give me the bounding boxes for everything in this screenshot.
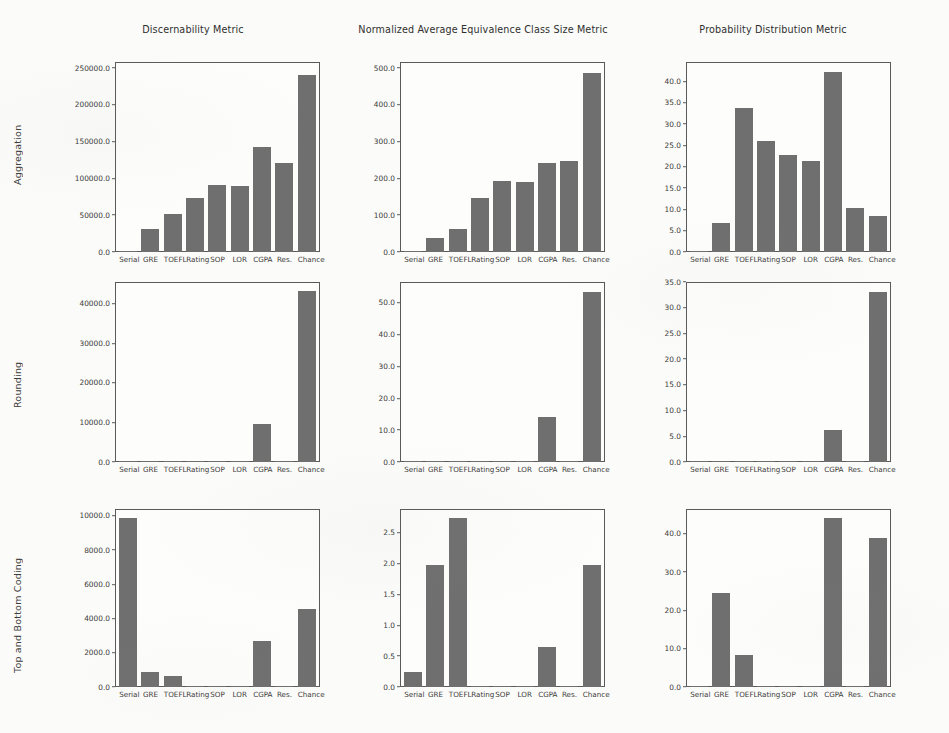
y-tick-label: 100.0 [374, 211, 400, 218]
bar-lor [231, 461, 249, 462]
bar-serial [690, 461, 708, 462]
bar-res [560, 161, 578, 252]
bar-toefl [449, 518, 467, 687]
bar-toefl [164, 214, 182, 252]
y-tick-label: 35.0 [665, 278, 686, 285]
bars-container [400, 282, 605, 462]
chart-cell-2: Probability Distribution Metric 0.05.010… [628, 24, 918, 274]
bars-container [686, 62, 891, 252]
x-tick-label: TOEFL [449, 255, 467, 264]
bar-gre [712, 593, 730, 687]
bar-gre [141, 672, 159, 687]
row-label-rounding: Rounding [12, 345, 36, 425]
bar-lor [516, 461, 534, 462]
bar-serial [690, 686, 708, 687]
y-tick-label: 0.0 [669, 458, 686, 465]
y-tick-label: 0.5 [383, 652, 400, 659]
bar-rating [186, 686, 204, 687]
bar-rating [471, 461, 489, 462]
x-axis-labels: SerialGRETOEFLRatingSOPLORCGPARes.Chance [686, 465, 891, 474]
bar-sop [779, 155, 797, 252]
x-tick-label: SOP [493, 255, 511, 264]
y-tick-label: 10.0 [379, 426, 400, 433]
chart-cell-6: 0.02000.04000.06000.08000.010000.0 Seria… [48, 495, 338, 710]
bar-toefl [735, 461, 753, 462]
y-tick-label: 10000.0 [79, 419, 115, 426]
bar-toefl [735, 655, 753, 687]
bars-container [400, 509, 605, 687]
bar-gre [426, 238, 444, 252]
y-tick-label: 40.0 [379, 331, 400, 338]
x-tick-label: Rating [186, 255, 204, 264]
x-tick-label: LOR [802, 465, 820, 474]
x-axis-labels: SerialGRETOEFLRatingSOPLORCGPARes.Chance [115, 255, 320, 264]
y-tick-label: 35.0 [665, 99, 686, 106]
bar-chance [583, 73, 601, 252]
y-tick-label: 0.0 [383, 683, 400, 690]
x-tick-label: TOEFL [735, 465, 753, 474]
y-tick-label: 0.0 [669, 683, 686, 690]
bar-serial [119, 251, 137, 252]
y-tick-label: 10.0 [665, 645, 686, 652]
x-tick-label: Serial [690, 465, 708, 474]
bar-serial [404, 461, 422, 462]
plot-area: 0.010.020.030.040.050.0 SerialGRETOEFLRa… [400, 282, 605, 462]
bar-cgpa [538, 163, 556, 252]
x-axis-labels: SerialGRETOEFLRatingSOPLORCGPARes.Chance [400, 255, 605, 264]
x-tick-label: Rating [186, 690, 204, 699]
bar-chance [869, 292, 887, 462]
chart-cell-8: 0.010.020.030.040.0 SerialGRETOEFLRating… [628, 495, 918, 710]
bar-lor [802, 686, 820, 687]
plot-area: 0.0100.0200.0300.0400.0500.0 SerialGRETO… [400, 62, 605, 252]
y-tick-label: 5.0 [669, 227, 686, 234]
bar-res [846, 686, 864, 687]
x-tick-label: CGPA [824, 255, 842, 264]
bar-lor [516, 686, 534, 687]
bar-rating [186, 461, 204, 462]
bar-chance [298, 291, 316, 462]
row-label-top-and-bottom-coding: Top and Bottom Coding [12, 545, 36, 685]
bar-lor [516, 182, 534, 252]
bar-lor [802, 461, 820, 462]
bar-res [275, 686, 293, 687]
x-tick-label: Res. [560, 690, 578, 699]
y-tick-label: 400.0 [374, 101, 400, 108]
bars-container [686, 509, 891, 687]
x-tick-label: GRE [712, 690, 730, 699]
y-tick-label: 0.0 [98, 248, 115, 255]
x-tick-label: LOR [231, 465, 249, 474]
bar-gre [141, 461, 159, 462]
bar-res [560, 686, 578, 687]
bars-container [115, 282, 320, 462]
y-tick-label: 0.0 [98, 683, 115, 690]
plot-area: 0.050000.0100000.0150000.0200000.0250000… [115, 62, 320, 252]
bar-gre [141, 229, 159, 252]
x-tick-label: Res. [846, 465, 864, 474]
bar-serial [404, 672, 422, 687]
x-tick-label: Res. [846, 690, 864, 699]
bar-sop [208, 461, 226, 462]
chart-title: Normalized Average Equivalence Class Siz… [338, 24, 628, 35]
x-tick-label: GRE [426, 690, 444, 699]
bar-cgpa [824, 72, 842, 252]
x-tick-label: Serial [404, 465, 422, 474]
x-tick-label: Rating [471, 465, 489, 474]
bar-cgpa [824, 518, 842, 687]
y-tick-label: 0.0 [98, 458, 115, 465]
x-tick-label: LOR [802, 690, 820, 699]
x-tick-label: Rating [757, 690, 775, 699]
x-tick-label: SOP [779, 255, 797, 264]
y-tick-label: 40000.0 [79, 300, 115, 307]
bar-toefl [449, 229, 467, 252]
x-axis-labels: SerialGRETOEFLRatingSOPLORCGPARes.Chance [686, 690, 891, 699]
x-tick-label: Rating [186, 465, 204, 474]
x-tick-label: Chance [869, 465, 887, 474]
chart-cell-0: Discernability Metric 0.050000.0100000.0… [48, 24, 338, 274]
y-tick-label: 25.0 [665, 330, 686, 337]
y-tick-label: 200000.0 [75, 101, 115, 108]
y-tick-label: 30.0 [665, 120, 686, 127]
bar-gre [426, 565, 444, 687]
y-tick-label: 40.0 [665, 530, 686, 537]
y-tick-label: 0.0 [383, 248, 400, 255]
x-tick-label: TOEFL [164, 690, 182, 699]
